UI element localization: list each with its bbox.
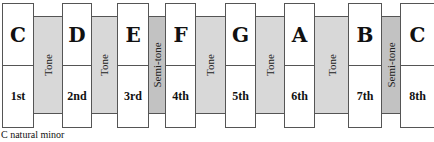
note-name: D bbox=[63, 4, 91, 66]
step-label: Tone bbox=[204, 54, 216, 76]
note-degree: 8th bbox=[401, 65, 434, 127]
step-5: Tone bbox=[254, 16, 285, 114]
note-name: C bbox=[3, 4, 33, 66]
note-4: F 4th bbox=[165, 3, 196, 128]
note-degree: 7th bbox=[349, 65, 381, 127]
note-degree: 1st bbox=[3, 65, 33, 127]
step-label: Tone bbox=[264, 54, 276, 76]
step-6: Tone bbox=[314, 16, 349, 114]
note-7: B 7th bbox=[348, 3, 382, 128]
scale-diagram: Tone Tone Semi-tone Tone Tone Tone Semi-… bbox=[0, 0, 434, 132]
note-3: E 3rd bbox=[117, 3, 149, 128]
note-name: G bbox=[226, 4, 255, 66]
caption: C natural minor bbox=[1, 129, 64, 140]
step-label: Tone bbox=[42, 54, 54, 76]
note-1: C 1st bbox=[2, 3, 34, 128]
step-2: Tone bbox=[90, 16, 118, 114]
step-1: Tone bbox=[32, 16, 63, 114]
note-name: B bbox=[349, 4, 381, 66]
note-name: E bbox=[118, 4, 148, 66]
step-7: Semi-tone bbox=[381, 16, 401, 114]
note-degree: 2nd bbox=[63, 65, 91, 127]
note-name: A bbox=[285, 4, 314, 66]
note-2: D 2nd bbox=[62, 3, 92, 128]
step-label: Semi-tone bbox=[151, 42, 163, 87]
note-degree: 4th bbox=[166, 65, 195, 127]
step-label: Semi-tone bbox=[385, 42, 397, 87]
note-degree: 3rd bbox=[118, 65, 148, 127]
step-label: Tone bbox=[98, 54, 110, 76]
note-degree: 6th bbox=[285, 65, 314, 127]
note-5: G 5th bbox=[225, 3, 256, 128]
step-label: Tone bbox=[326, 54, 338, 76]
note-name: C bbox=[401, 4, 434, 66]
note-8: C 8th bbox=[400, 3, 434, 128]
step-4: Tone bbox=[194, 16, 226, 114]
note-6: A 6th bbox=[284, 3, 315, 128]
step-3: Semi-tone bbox=[147, 16, 166, 114]
note-degree: 5th bbox=[226, 65, 255, 127]
note-name: F bbox=[166, 4, 195, 66]
